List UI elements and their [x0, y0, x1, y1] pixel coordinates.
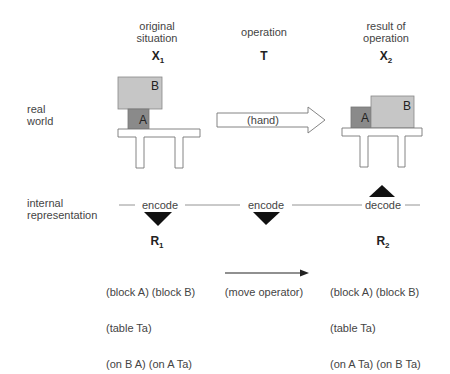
- symbol-x1: X1: [152, 49, 164, 65]
- table-result: [342, 128, 422, 167]
- row-label-real-world: real world: [27, 103, 53, 127]
- heading-operation: operation: [241, 26, 287, 38]
- move-operator-label: (move operator): [225, 286, 303, 298]
- move-arrow-head-icon: [300, 270, 309, 277]
- block-a-original-label: A: [139, 113, 147, 127]
- symbol-r2: R2: [376, 234, 389, 250]
- block-a-result-label: A: [361, 111, 369, 125]
- encode-triangle-middle-icon: [253, 212, 280, 225]
- r2-facts: (block A) (block B) (table Ta) (on A Ta)…: [330, 262, 421, 374]
- r2-fact-line: (on A Ta) (on B Ta): [330, 358, 421, 370]
- encode-label-middle: encode: [248, 199, 284, 211]
- symbol-t: T: [260, 49, 267, 63]
- r1-fact-line: (on B A) (on A Ta): [106, 358, 195, 370]
- r1-fact-line: (table Ta): [106, 322, 195, 334]
- hand-label: (hand): [247, 114, 279, 126]
- heading-result: result of operation: [363, 20, 409, 44]
- encode-triangle-left-icon: [144, 212, 172, 226]
- decode-triangle-icon: [369, 185, 395, 197]
- heading-original: original situation: [137, 20, 178, 44]
- row-label-internal-representation: internal representation: [27, 197, 97, 221]
- r1-fact-line: (block A) (block B): [106, 286, 195, 298]
- encode-label-left: encode: [142, 199, 178, 211]
- block-b-result-label: B: [403, 99, 411, 113]
- symbol-x2: X2: [380, 49, 392, 65]
- r2-fact-line: (block A) (block B): [330, 286, 421, 298]
- table-original: [118, 129, 200, 168]
- r2-fact-line: (table Ta): [330, 322, 421, 334]
- decode-label: decode: [365, 199, 401, 211]
- r1-facts: (block A) (block B) (table Ta) (on B A) …: [106, 262, 195, 374]
- symbol-r1: R1: [150, 234, 163, 250]
- block-b-original-label: B: [151, 79, 159, 93]
